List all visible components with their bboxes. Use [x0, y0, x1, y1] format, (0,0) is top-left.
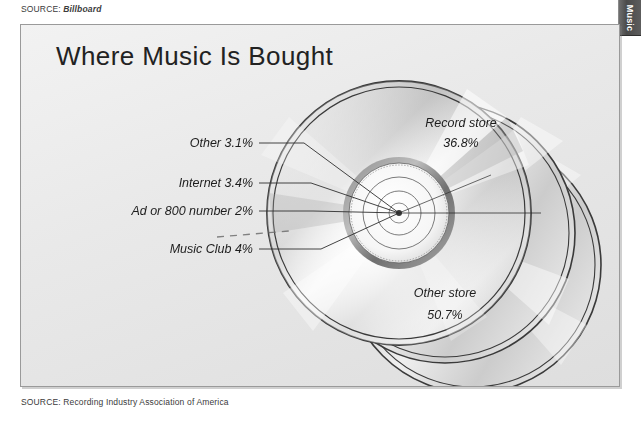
callout-label-internet: Internet 3.4% — [179, 176, 253, 190]
callout-label-record-store-value: 36.8% — [443, 136, 478, 150]
source-top-name: Billboard — [63, 4, 101, 14]
callout-label-other: Other 3.1% — [190, 136, 253, 150]
callout-label-music-club: Music Club 4% — [170, 242, 253, 256]
infographic-page: SOURCE: Billboard Music Where Music Is B… — [0, 0, 641, 421]
source-top-prefix: SOURCE: — [21, 4, 61, 14]
source-top: SOURCE: Billboard — [21, 4, 101, 14]
section-tab-label: Music — [625, 4, 635, 31]
callout-label-other-store-value: 50.7% — [427, 308, 462, 322]
callout-label-other-store-name: Other store — [414, 286, 477, 300]
callout-label-record-store-name: Record store — [425, 116, 497, 130]
callout-label-ad-or-800-number: Ad or 800 number 2% — [130, 204, 253, 218]
cd-pie-chart: Other 3.1% Internet 3.4% Ad or 800 numbe… — [21, 25, 619, 386]
chart-panel: Where Music Is Bought — [20, 24, 620, 387]
section-tab-music[interactable]: Music — [618, 0, 641, 36]
source-bottom: SOURCE: Recording Industry Association o… — [21, 397, 229, 407]
